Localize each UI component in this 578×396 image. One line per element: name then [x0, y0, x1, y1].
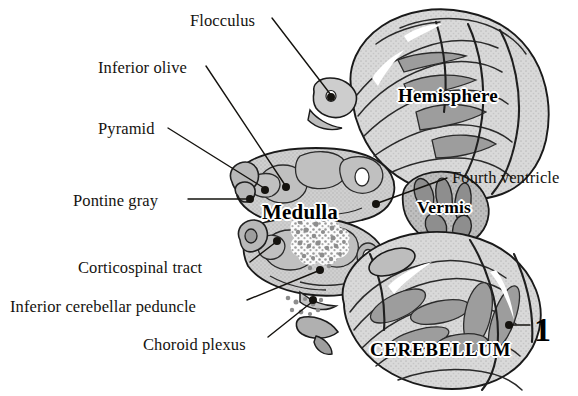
- medulla-upper-pyramid-region: [230, 162, 258, 202]
- fourth-ventricle-space: [355, 168, 369, 186]
- callout-label-pyramid: Pyramid: [98, 121, 155, 138]
- anatomical-figure: FlocculusInferior olivePyramidPontine gr…: [0, 0, 578, 396]
- callout-label-corticospinal-tract: Corticospinal tract: [78, 260, 202, 277]
- callout-label-fourth-ventricle: Fourth ventricle: [452, 170, 559, 187]
- cerebellar-tonsil-tip: [314, 336, 332, 354]
- structure-label-vermis: Vermis: [417, 199, 471, 217]
- callout-label-flocculus: Flocculus: [190, 13, 255, 30]
- cerebellar-tonsil: [296, 317, 338, 339]
- callout-label-inferior-cerebellar-peduncle: Inferior cerebellar peduncle: [10, 299, 196, 316]
- structure-label-hemisphere: Hemisphere: [398, 86, 498, 105]
- corticospinal-knob: [238, 220, 267, 252]
- structure-label-cerebellum: CEREBELLUM: [370, 340, 511, 359]
- callout-label-choroid-plexus: Choroid plexus: [143, 337, 246, 354]
- structure-label-medulla: Medulla: [262, 202, 338, 223]
- index-number-marker: 1: [534, 313, 551, 347]
- flocculus-structure: [308, 78, 357, 130]
- callout-label-inferior-olive: Inferior olive: [98, 60, 187, 77]
- callout-label-pontine-gray: Pontine gray: [73, 193, 158, 210]
